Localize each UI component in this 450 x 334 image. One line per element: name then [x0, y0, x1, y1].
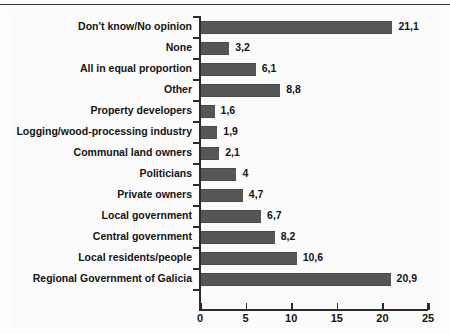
category-axis-tick [193, 226, 199, 228]
category-label: Politicians [139, 163, 192, 184]
bar-row: Property developers1,6 [0, 100, 450, 121]
bar-row: None3,2 [0, 37, 450, 58]
bar-row: Central government8,2 [0, 226, 450, 247]
value-axis-tick-label: 0 [180, 312, 220, 324]
category-axis-tick [193, 79, 199, 81]
bar-value-label: 3,2 [235, 37, 250, 58]
bar-rows: Don't know/No opinion21,1None3,2All in e… [0, 16, 450, 289]
category-axis-tick [193, 37, 199, 39]
value-axis-tick [246, 303, 248, 310]
value-axis-tick [200, 303, 202, 310]
category-label: Private owners [117, 184, 192, 205]
bar [200, 252, 297, 265]
category-axis-tick [193, 205, 199, 207]
bar-value-label: 4 [242, 163, 248, 184]
category-label: All in equal proportion [80, 58, 192, 79]
bar-row: Local residents/people10,6 [0, 247, 450, 268]
bar-row: Politicians4 [0, 163, 450, 184]
bar-row: Regional Government of Galicia20,9 [0, 268, 450, 289]
bar [200, 42, 229, 55]
value-axis-tick-label: 20 [362, 312, 402, 324]
horizontal-bar-chart: Don't know/No opinion21,1None3,2All in e… [0, 0, 450, 334]
bar [200, 84, 280, 97]
category-axis-tick [193, 247, 199, 249]
bar-value-label: 1,9 [223, 121, 238, 142]
category-label: Logging/wood-processing industry [16, 121, 192, 142]
bar-value-label: 2,1 [225, 142, 240, 163]
bar-value-label: 4,7 [249, 184, 264, 205]
category-axis-tick [193, 16, 199, 18]
bar-row: Other8,8 [0, 79, 450, 100]
bar [200, 105, 215, 118]
bar-row: Logging/wood-processing industry1,9 [0, 121, 450, 142]
value-axis-tick-label: 25 [408, 312, 448, 324]
category-axis-tick [193, 289, 199, 291]
bar-value-label: 1,6 [221, 100, 236, 121]
category-label: Regional Government of Galicia [33, 268, 192, 289]
bar [200, 168, 236, 181]
value-axis-tick [291, 303, 293, 310]
bar [200, 126, 217, 139]
value-axis-tick-label: 5 [226, 312, 266, 324]
value-axis-line [199, 309, 428, 311]
bar [200, 210, 261, 223]
bar [200, 21, 392, 34]
value-axis-tick-label: 15 [317, 312, 357, 324]
bar [200, 147, 219, 160]
bar-value-label: 8,8 [286, 79, 301, 100]
category-axis-tick [193, 121, 199, 123]
bar-value-label: 21,1 [398, 16, 418, 37]
value-axis-tick-label: 10 [271, 312, 311, 324]
figure: Don't know/No opinion21,1None3,2All in e… [0, 0, 450, 334]
category-axis-tick [193, 58, 199, 60]
bar-value-label: 10,6 [303, 247, 323, 268]
bar-row: Private owners4,7 [0, 184, 450, 205]
bar-value-label: 6,7 [267, 205, 282, 226]
category-label: Don't know/No opinion [78, 16, 192, 37]
category-axis-line [199, 16, 201, 310]
value-axis-tick [337, 303, 339, 310]
value-axis-tick [382, 303, 384, 310]
bar [200, 231, 275, 244]
category-axis-tick [193, 163, 199, 165]
bar-row: Communal land owners2,1 [0, 142, 450, 163]
bar-row: All in equal proportion6,1 [0, 58, 450, 79]
category-label: Central government [93, 226, 192, 247]
bar [200, 63, 256, 76]
category-axis-tick [193, 184, 199, 186]
bar-value-label: 20,9 [397, 268, 417, 289]
bar [200, 273, 391, 286]
category-label: Other [164, 79, 192, 100]
bar [200, 189, 243, 202]
category-axis-tick [193, 100, 199, 102]
category-label: Property developers [90, 100, 192, 121]
category-label: None [166, 37, 192, 58]
category-label: Local residents/people [78, 247, 192, 268]
bar-row: Local government6,7 [0, 205, 450, 226]
category-axis-tick [193, 142, 199, 144]
category-label: Communal land owners [74, 142, 192, 163]
bar-row: Don't know/No opinion21,1 [0, 16, 450, 37]
bar-value-label: 6,1 [262, 58, 277, 79]
value-axis-tick [428, 303, 430, 310]
category-label: Local government [102, 205, 192, 226]
category-axis-tick [193, 268, 199, 270]
bar-value-label: 8,2 [281, 226, 296, 247]
